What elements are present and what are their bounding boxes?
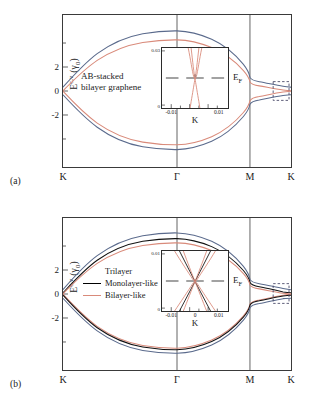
panel-b-xtick-K1: K [59, 374, 66, 385]
panel-a-letter: (a) [10, 176, 21, 186]
panel-a-xtick-M: M [246, 171, 255, 182]
panel-a-inset-curves: 0 [162, 48, 228, 108]
panel-b-dirac-upper-left [179, 251, 195, 281]
panel-b: (b) Ec,v (γ0) 2 0 -2 K Γ M K [0, 203, 312, 406]
legend-title: Trilayer [83, 265, 158, 277]
panel-b-inset-xtick-right: 0.01 [214, 312, 224, 318]
panel-a-ytick-2: 2 [55, 62, 60, 72]
panel-b-inset-ytick-bottom: 0 [158, 306, 161, 311]
panel-a-ytick-0: 0 [55, 86, 60, 96]
panel-a-inset-ytick-bottom: 0 [158, 103, 161, 108]
panel-a-annotation-line1: AB-stacked [81, 71, 141, 82]
panel-b-fermi-label: EF [233, 275, 242, 287]
panel-a-ytick-m2: -2 [52, 110, 60, 120]
panel-b-inset-curves [162, 251, 228, 311]
panel-b-xtick-K2: K [287, 374, 294, 385]
panel-b-dirac-lower-left [179, 281, 195, 311]
panel-a-xtick-K2: K [287, 171, 294, 182]
panel-b-legend: Trilayer Monolayer-like Bilayer-like [83, 265, 158, 301]
legend-label-bilayer-like: Bilayer-like [105, 289, 145, 301]
panel-b-ytick-m2: -2 [52, 313, 60, 323]
panel-b-inset-xtick-left: -0.01 [166, 312, 177, 318]
panel-b-plot-area: Ec,v (γ0) 2 0 -2 K Γ M K [62, 217, 292, 371]
panel-b-inset-ytick-top: 0.01 [151, 251, 160, 256]
panel-a-inset-xtick-right: 0.01 [214, 109, 224, 115]
panel-a-inset-ytick-top: 0.03 [151, 48, 160, 53]
legend-label-monolayer-like: Monolayer-like [105, 277, 158, 289]
panel-b-ytick-2: 2 [55, 265, 60, 275]
panel-a-plot-area: Ec,v (γ0) 2 0 -2 K Γ M K [62, 14, 292, 168]
panel-b-xtick-M: M [246, 374, 255, 385]
panel-b-inset-xlabel: K [192, 318, 199, 328]
panel-a-inset-xtick-left: -0.01 [166, 109, 177, 115]
legend-item-monolayer-like: Monolayer-like [83, 277, 158, 289]
svg-text:0: 0 [194, 74, 196, 78]
legend-swatch-bilayer-like [83, 295, 101, 296]
figure-band-structures: (a) Ec,v (γ0) 2 0 -2 K Γ M K [0, 0, 312, 406]
panel-b-dirac-lower-right [195, 281, 211, 311]
panel-b-letter: (b) [10, 379, 21, 389]
panel-a-annotation: AB-stacked bilayer graphene [81, 71, 141, 93]
panel-b-inset: 0.01 0 -0.01 0 0.01 K [161, 250, 229, 312]
legend-swatch-monolayer-like [83, 283, 101, 284]
panel-a-fermi-label: EF [233, 72, 242, 84]
panel-b-dirac-upper-right [195, 251, 211, 281]
panel-a-inset: 0.03 0 -0.01 0.01 K [161, 47, 229, 109]
panel-a-annotation-line2: bilayer graphene [81, 82, 141, 93]
panel-b-ytick-0: 0 [55, 289, 60, 299]
panel-a: (a) Ec,v (γ0) 2 0 -2 K Γ M K [0, 0, 312, 203]
panel-a-inset-xlabel: K [192, 115, 199, 125]
panel-b-xtick-Gamma: Γ [174, 374, 180, 385]
panel-a-xtick-Gamma: Γ [174, 171, 180, 182]
legend-item-bilayer-like: Bilayer-like [83, 289, 158, 301]
panel-a-xtick-K1: K [59, 171, 66, 182]
